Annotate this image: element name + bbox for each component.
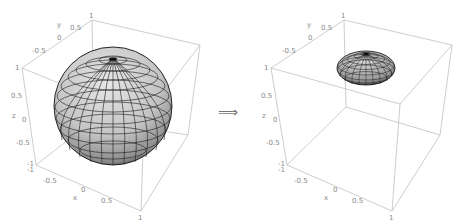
right-plot: y 0.5 0 -0.5 1 1 0.5 z 0 -0.5 -1 -1 -0.5…	[261, 12, 452, 222]
left-plot: y 0.5 0 -0.5 1 1 0.5 z 0 -0.5 -1 -1 -0.5…	[11, 12, 200, 222]
svg-text:-0.5: -0.5	[32, 47, 46, 55]
svg-text:0.5: 0.5	[11, 92, 22, 100]
svg-text:-1: -1	[27, 166, 34, 174]
svg-text:-0.5: -0.5	[294, 177, 308, 185]
svg-text:0.5: 0.5	[261, 92, 272, 100]
svg-text:z: z	[262, 112, 266, 120]
sphere-surface	[54, 47, 172, 165]
svg-text:-0.5: -0.5	[282, 47, 296, 55]
svg-text:-1: -1	[278, 166, 285, 174]
svg-text:0: 0	[81, 186, 85, 194]
svg-text:-0.5: -0.5	[43, 177, 57, 185]
svg-text:x: x	[324, 194, 328, 202]
implies-arrow-icon: ⟹	[218, 104, 238, 120]
svg-text:1: 1	[15, 64, 19, 72]
svg-text:0: 0	[57, 34, 61, 42]
svg-text:x: x	[73, 194, 77, 202]
svg-text:0: 0	[308, 34, 312, 42]
ellipsoid-surface	[337, 51, 395, 85]
left-y-axis-ticks: y 0.5 0 -0.5 1	[32, 12, 93, 55]
svg-text:z: z	[12, 112, 16, 120]
svg-text:-0.5: -0.5	[16, 139, 30, 147]
right-x-axis-ticks: -1 -0.5 0 x 0.5 1	[278, 166, 393, 222]
svg-text:0.5: 0.5	[101, 197, 112, 205]
svg-text:1: 1	[138, 214, 142, 222]
svg-text:y: y	[57, 21, 61, 29]
svg-text:y: y	[307, 21, 311, 29]
svg-text:0: 0	[273, 116, 277, 124]
svg-text:1: 1	[389, 214, 393, 222]
figure-canvas: y 0.5 0 -0.5 1 1 0.5 z 0 -0.5 -1 -1 -0.5…	[0, 0, 460, 222]
svg-text:0.5: 0.5	[321, 24, 332, 32]
svg-text:0.5: 0.5	[352, 197, 363, 205]
left-z-axis-ticks: 1 0.5 z 0 -0.5 -1	[11, 64, 34, 168]
svg-text:0: 0	[333, 186, 337, 194]
svg-text:0: 0	[22, 116, 26, 124]
left-x-axis-ticks: -1 -0.5 0 x 0.5 1	[27, 166, 142, 222]
svg-text:0.5: 0.5	[70, 24, 81, 32]
svg-text:1: 1	[264, 64, 268, 72]
svg-text:1: 1	[89, 12, 93, 20]
right-y-axis-ticks: y 0.5 0 -0.5 1	[282, 12, 345, 55]
svg-text:1: 1	[341, 12, 345, 20]
svg-text:-0.5: -0.5	[266, 139, 280, 147]
